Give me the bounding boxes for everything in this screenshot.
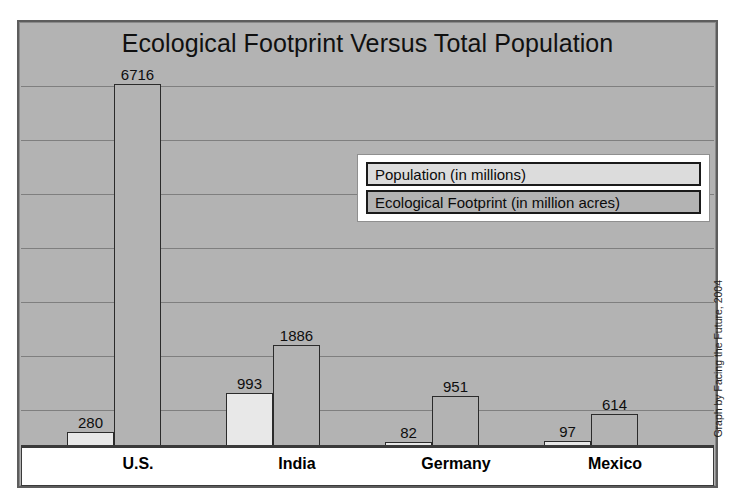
chart-screenshot: Ecological Footprint Versus Total Popula… (0, 0, 736, 504)
bar-group-india: 993 1886 (226, 65, 366, 447)
bar-label-mexico-footprint: 614 (583, 396, 646, 413)
legend-label-population: Population (in millions) (368, 166, 526, 183)
chart-frame: Ecological Footprint Versus Total Popula… (17, 20, 718, 488)
bar-group-mexico: 97 614 (544, 65, 684, 447)
credit-text: Graph by Facing the Future, 2004 (712, 280, 724, 438)
bar-label-germany-footprint: 951 (424, 378, 487, 395)
bar-label-us-footprint: 6716 (106, 66, 169, 83)
legend-label-footprint: Ecological Footprint (in million acres) (368, 194, 620, 211)
legend-item-population[interactable]: Population (in millions) (366, 162, 701, 186)
bar-label-india-population: 993 (218, 375, 281, 392)
category-axis-band: U.S. India Germany Mexico (21, 447, 714, 486)
legend[interactable]: Population (in millions) Ecological Foot… (357, 154, 710, 222)
bar-label-us-population: 280 (59, 414, 122, 431)
plot-area: 280 6716 993 1886 82 951 (21, 65, 714, 447)
bar-group-us: 280 6716 (67, 65, 207, 447)
bar-us-footprint[interactable] (114, 84, 161, 447)
bar-label-germany-population: 82 (377, 424, 440, 441)
category-label-us: U.S. (68, 455, 208, 473)
legend-item-footprint[interactable]: Ecological Footprint (in million acres) (366, 190, 701, 214)
page-title: Ecological Footprint Versus Total Popula… (122, 29, 614, 58)
bar-group-germany: 82 951 (385, 65, 525, 447)
bar-india-population[interactable] (226, 393, 273, 447)
bars-layer: 280 6716 993 1886 82 951 (21, 65, 714, 447)
bar-label-india-footprint: 1886 (265, 327, 328, 344)
category-label-germany: Germany (386, 455, 526, 473)
category-label-mexico: Mexico (545, 455, 685, 473)
chart-title-band: Ecological Footprint Versus Total Popula… (19, 22, 716, 65)
bar-india-footprint[interactable] (273, 345, 320, 447)
category-label-india: India (227, 455, 367, 473)
scan-artifact (0, 0, 736, 8)
bar-label-mexico-population: 97 (536, 423, 599, 440)
